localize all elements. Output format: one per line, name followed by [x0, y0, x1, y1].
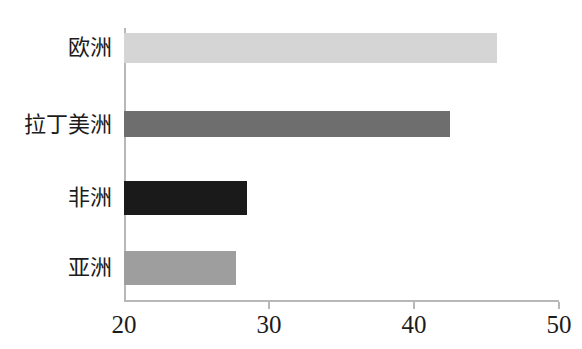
- plot-area: 20304050: [0, 0, 582, 349]
- x-axis-tick: [558, 302, 560, 309]
- x-axis-line: [124, 300, 559, 302]
- x-axis-tick-label: 50: [547, 312, 572, 337]
- x-axis-tick: [268, 302, 270, 309]
- x-axis-tick-label: 40: [402, 312, 427, 337]
- x-axis-tick-label: 20: [112, 312, 137, 337]
- bar: [124, 33, 497, 63]
- bar-chart: 欧洲拉丁美洲非洲亚洲 20304050: [0, 0, 582, 349]
- bar: [124, 181, 247, 215]
- x-axis-tick: [413, 302, 415, 309]
- bar: [124, 251, 236, 285]
- x-axis-tick-label: 30: [257, 312, 282, 337]
- bar: [124, 111, 450, 137]
